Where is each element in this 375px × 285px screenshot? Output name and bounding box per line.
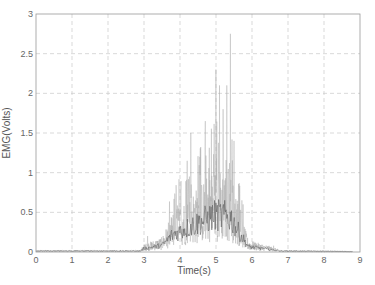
x-tick-label: 4 — [177, 255, 182, 265]
y-tick-labels: 00.511.522.53 — [20, 9, 33, 257]
x-tick-label: 8 — [321, 255, 326, 265]
y-axis-label: EMG(Volts) — [1, 107, 12, 158]
x-tick-label: 0 — [33, 255, 38, 265]
x-tick-label: 7 — [285, 255, 290, 265]
x-tick-label: 9 — [357, 255, 362, 265]
y-tick-label: 3 — [28, 9, 33, 19]
y-tick-label: 1 — [28, 168, 33, 178]
y-tick-label: 2.5 — [20, 49, 33, 59]
emg-chart: 0123456789 00.511.522.53 Time(s) EMG(Vol… — [0, 0, 375, 285]
y-tick-label: 2 — [28, 88, 33, 98]
x-axis-label: Time(s) — [177, 265, 211, 276]
y-tick-label: 0 — [28, 247, 33, 257]
y-tick-label: 1.5 — [20, 128, 33, 138]
y-tick-label: 0.5 — [20, 207, 33, 217]
x-tick-label: 5 — [213, 255, 218, 265]
x-tick-label: 2 — [105, 255, 110, 265]
x-tick-labels: 0123456789 — [33, 255, 362, 265]
emg-trace — [36, 34, 353, 252]
x-tick-label: 6 — [249, 255, 254, 265]
x-tick-label: 3 — [141, 255, 146, 265]
x-tick-label: 1 — [69, 255, 74, 265]
emg-signal-line — [36, 34, 353, 252]
